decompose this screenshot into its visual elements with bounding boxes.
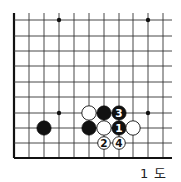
move-number-label: 3 [115,107,122,119]
star-points [57,18,150,115]
black-stone-1: 1 [112,121,126,135]
diagram-caption: 1 도 [140,163,170,179]
star-point-icon [57,111,61,115]
white-stone-icon [82,106,96,120]
move-number-label: 2 [100,137,107,149]
grid-lines [14,13,172,158]
black-stone-icon [37,121,51,135]
move-number-label: 1 [115,122,122,134]
white-stone-icon [97,121,111,135]
star-point-icon [146,18,150,22]
black-stone-icon [97,106,111,120]
white-stone-2: 2 [98,137,111,150]
black-stone-icon [82,121,96,135]
black-stone [37,121,51,135]
move-number-label: 4 [115,137,122,149]
white-stone [97,121,111,135]
star-point-icon [57,18,61,22]
white-stone [82,106,96,120]
white-stone [126,121,140,135]
white-stone-icon [126,121,140,135]
star-point-icon [146,111,150,115]
black-stone [97,106,111,120]
black-stone-3: 3 [112,106,126,120]
black-stone [82,121,96,135]
go-board-diagram: 3124 [0,0,181,182]
white-stone-4: 4 [113,137,126,150]
